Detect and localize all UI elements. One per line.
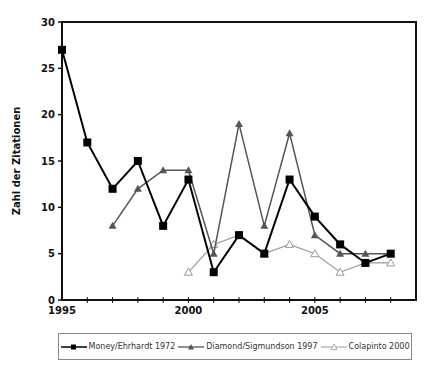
data-point: [387, 250, 395, 258]
legend-item-money: Money/Ehrhardt 1972: [61, 342, 176, 351]
y-tick-label: 5: [48, 248, 55, 259]
series-money-ehrhardt-1972: [58, 46, 395, 276]
y-tick-label: 0: [48, 295, 55, 306]
y-tick-label: 15: [41, 156, 55, 167]
data-point: [210, 250, 218, 257]
x-tick-label: 1995: [48, 305, 76, 316]
data-point: [159, 222, 167, 230]
data-point: [361, 259, 369, 267]
series-line: [113, 124, 391, 254]
data-point: [286, 176, 294, 184]
y-tick-label: 10: [41, 202, 55, 213]
data-point: [134, 157, 142, 165]
open-triangle-marker-icon: [321, 343, 347, 351]
plot-area: 051015202530199520002005: [41, 17, 416, 317]
series-line: [62, 50, 391, 272]
data-point: [210, 268, 218, 276]
series-diamond-sigmundson-1997: [109, 120, 395, 257]
x-tick-label: 2000: [175, 305, 203, 316]
y-tick-label: 20: [41, 109, 55, 120]
data-point: [83, 138, 91, 146]
series-group: [58, 46, 395, 276]
legend-item-colapinto: Colapinto 2000: [321, 342, 410, 351]
y-tick-label: 30: [41, 17, 55, 28]
y-axis-label: Zahl der Zitationen: [11, 107, 22, 216]
data-point: [286, 240, 294, 247]
legend-label: Colapinto 2000: [349, 342, 410, 351]
square-marker-icon: [61, 343, 87, 351]
data-point: [311, 231, 319, 238]
line-chart: 051015202530199520002005 Zahl der Zitati…: [0, 0, 437, 378]
data-point: [286, 129, 294, 136]
legend-label: Money/Ehrhardt 1972: [89, 342, 176, 351]
data-point: [311, 213, 319, 221]
y-tick-label: 25: [41, 63, 55, 74]
data-point: [184, 176, 192, 184]
data-point: [109, 185, 117, 193]
legend-label: Diamond/Sigmundson 1997: [206, 342, 317, 351]
triangle-marker-icon: [178, 343, 204, 351]
x-tick-label: 2005: [301, 305, 329, 316]
data-point: [260, 222, 268, 229]
data-point: [58, 46, 66, 54]
legend: Money/Ehrhardt 1972 Diamond/Sigmundson 1…: [58, 333, 412, 360]
legend-item-diamond: Diamond/Sigmundson 1997: [178, 342, 317, 351]
plot-frame: [62, 22, 416, 300]
data-point: [336, 240, 344, 248]
data-point: [235, 120, 243, 127]
data-point: [235, 231, 243, 239]
data-point: [260, 250, 268, 258]
